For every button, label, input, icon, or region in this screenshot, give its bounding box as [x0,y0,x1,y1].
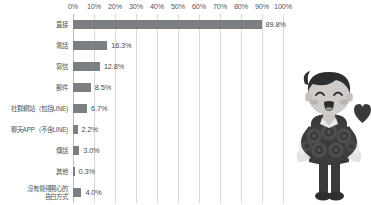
x-axis-tick-100: 100% [274,2,292,11]
bar [73,83,91,92]
bar-value-label: 4.0% [85,188,101,197]
bar-value-label: 3.0% [83,146,99,155]
bar-value-label: 8.5% [95,83,111,92]
bar-value-label: 12.8% [104,62,124,71]
x-axis-tick-0: 0% [68,2,78,11]
category-label: 寫信 [0,63,68,71]
x-axis-tick-10: 10% [87,2,101,11]
category-label: 傳話 [0,147,68,155]
x-axis-tick-20: 20% [108,2,122,11]
bar [73,62,100,71]
boy-with-bouquet-illustration [286,62,371,205]
bar [73,146,79,155]
bar-value-label: 89.8% [266,20,286,29]
bar [73,20,262,29]
x-axis-tick-60: 60% [192,2,206,11]
bar-value-label: 0.3% [79,167,95,176]
bar-value-label: 16.3% [111,41,131,50]
bar-chart: 0%10%20%30%40%50%60%70%80%90%100% 直接89.8… [0,0,371,205]
x-axis-tick-30: 30% [129,2,143,11]
category-label: 沒有覺得開心的 告白方式 [0,185,68,200]
x-axis-tick-80: 80% [234,2,248,11]
x-axis-tick-labels: 0%10%20%30%40%50%60%70%80%90%100% [0,2,371,14]
bar-row: 電話16.3% [0,35,371,56]
bar [73,188,81,197]
category-label: 聊天APP（不含LINE) [0,126,68,134]
bar-value-label: 2.2% [82,125,98,134]
bar-row: 直接89.8% [0,14,371,35]
category-label: 郵件 [0,84,68,92]
bar [73,41,107,50]
bar [73,104,87,113]
bar-value-label: 6.7% [91,104,107,113]
x-axis-tick-50: 50% [171,2,185,11]
category-label: 社群網站（包括LINE) [0,105,68,113]
bar [73,125,78,134]
bar [73,167,75,176]
category-label: 其他 [0,168,68,176]
x-axis-tick-70: 70% [213,2,227,11]
category-label: 直接 [0,21,68,29]
x-axis-tick-40: 40% [150,2,164,11]
x-axis-tick-90: 90% [255,2,269,11]
category-label: 電話 [0,42,68,50]
